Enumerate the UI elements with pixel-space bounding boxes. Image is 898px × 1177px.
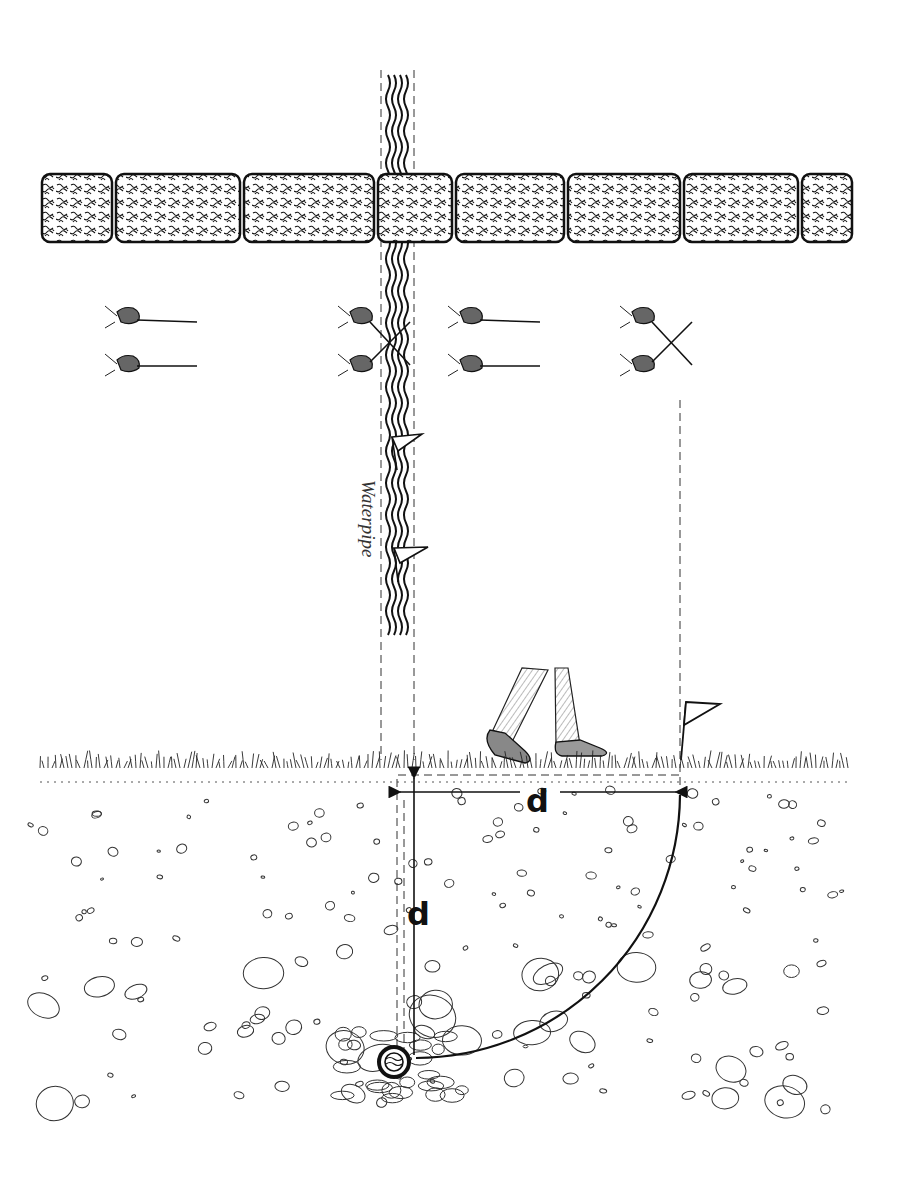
wall-block [802, 174, 852, 242]
horizontal-distance-label: d [526, 782, 549, 820]
soil-cross-section [23, 785, 843, 1124]
hand-icon [117, 356, 139, 372]
pipe-cross-section-icon [379, 1047, 409, 1077]
walking-person [487, 668, 607, 763]
wall-block [116, 174, 240, 242]
rod [137, 320, 197, 322]
ground-flag-icon [681, 702, 720, 760]
vertical-depth-label: d [407, 895, 430, 933]
wall-block [684, 174, 798, 242]
hand-icon [117, 308, 139, 324]
rod [480, 320, 540, 322]
hand-icon [632, 308, 654, 324]
hand-icon [632, 356, 654, 372]
wall-block [456, 174, 564, 242]
hand-icon [460, 308, 482, 324]
hand-icon [460, 356, 482, 372]
grass-line [40, 750, 848, 768]
rods-parallel-left [105, 306, 197, 376]
wall-block [378, 174, 452, 242]
wall-block [244, 174, 374, 242]
hand-icon [350, 356, 372, 372]
rods-parallel-middle [448, 306, 540, 376]
wall-block [568, 174, 680, 242]
dowsing-diagram: Waterpipe d d [0, 0, 898, 1177]
pipe-label: Waterpipe [358, 480, 379, 557]
wall-block [42, 174, 112, 242]
pipe-flag-icon [392, 434, 428, 582]
stone-wall [42, 174, 852, 242]
hand-icon [350, 308, 372, 324]
rods-crossed-right [620, 306, 692, 376]
